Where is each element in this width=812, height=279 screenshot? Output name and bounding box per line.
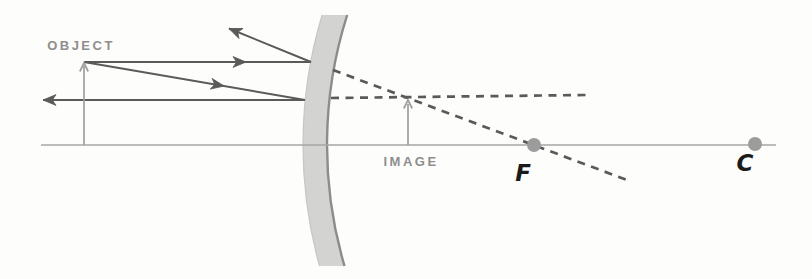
object-label: OBJECT <box>47 38 115 53</box>
arrowheads <box>43 24 412 109</box>
labels: OBJECT IMAGE F C <box>47 38 753 186</box>
arrowhead-reflected-upper-icon <box>227 24 243 39</box>
virtual-extension-horizontal <box>331 95 586 98</box>
reflected-ray-upper <box>229 29 311 63</box>
mirror <box>303 15 347 266</box>
object-image-arrows <box>84 66 408 145</box>
center-of-curvature-label: C <box>737 150 754 176</box>
convex-mirror-ray-diagram: OBJECT IMAGE F C <box>0 0 812 279</box>
focal-point-label: F <box>515 160 531 186</box>
image-label: IMAGE <box>383 154 438 169</box>
center-of-curvature-dot <box>748 137 762 151</box>
mirror-body <box>303 15 347 266</box>
virtual-ray-extensions <box>331 70 627 180</box>
focal-point-dot <box>527 138 541 152</box>
figure-canvas: OBJECT IMAGE F C <box>0 0 812 279</box>
virtual-extension-through-focus <box>333 70 627 180</box>
incident-ray-toward-focus <box>84 62 305 100</box>
